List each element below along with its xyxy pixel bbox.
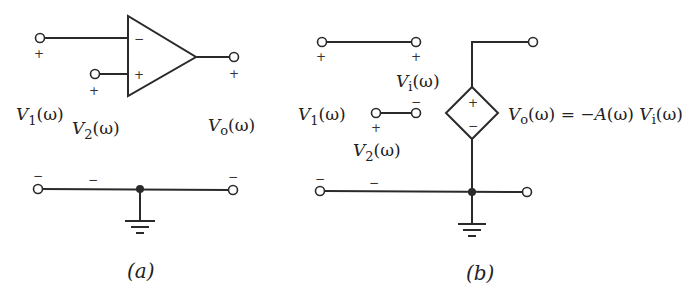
vo-ref-terminal (229, 186, 238, 195)
v1-plus-sign: + (34, 47, 44, 61)
v1-label: V1(ω) (16, 104, 64, 128)
vo-ref-terminal (523, 188, 532, 197)
caption-b: (b) (466, 261, 494, 285)
v1-minus-sign: − (33, 169, 43, 183)
source-output-wire (472, 42, 529, 87)
vi-label: Vi(ω) (396, 71, 440, 94)
opamp-inverting-sign: − (134, 32, 144, 46)
v2-minus-sign: − (369, 176, 379, 190)
v1-ref-terminal (316, 187, 325, 196)
v1-plus-sign: + (316, 50, 326, 64)
v1-terminal (318, 38, 327, 47)
panel-a-opamp-circuit: + + − + + V1(ω) V2(ω) Vo(ω) − − − (a (16, 16, 255, 283)
v2-label: V2(ω) (353, 140, 401, 164)
ground-icon (125, 189, 155, 233)
v2-label: V2(ω) (72, 118, 120, 142)
caption-a: (a) (127, 259, 155, 283)
vo-terminal (230, 53, 239, 62)
vo-label: Vo(ω) (208, 115, 255, 138)
vo-minus-sign: − (228, 170, 238, 184)
v1-minus-sign: − (315, 172, 325, 186)
opamp-triangle (128, 16, 196, 96)
vi-minus-sign: − (411, 95, 421, 109)
panel-b-equivalent-circuit: + + Vi(ω) − + V1(ω) V2(ω) + − Vo(ω) = −A… (298, 38, 683, 286)
v2-terminal (91, 70, 100, 79)
ground-icon (458, 192, 486, 236)
source-minus-sign: − (468, 119, 478, 133)
source-equation: Vo(ω) = −A(ω) Vi(ω) (508, 104, 683, 127)
vi-plus-sign: + (411, 50, 421, 64)
reference-wire (324, 191, 523, 192)
reference-wire (42, 189, 229, 190)
v2-minus-sign: − (88, 173, 98, 187)
circuit-diagram: + + − + + V1(ω) V2(ω) Vo(ω) − − − (a (0, 0, 694, 301)
vo-plus-sign: + (229, 67, 239, 81)
source-plus-sign: + (468, 96, 478, 110)
opamp-noninverting-sign: + (134, 68, 144, 82)
v1-label: V1(ω) (298, 104, 346, 128)
vi-minus-terminal (412, 109, 421, 118)
v1-ref-terminal (34, 185, 43, 194)
v2-plus-sign: + (371, 121, 381, 135)
v2-terminal (372, 109, 381, 118)
vi-plus-terminal (412, 38, 421, 47)
v1-terminal (36, 34, 45, 43)
v2-plus-sign: + (89, 84, 99, 98)
vo-terminal (529, 38, 538, 47)
